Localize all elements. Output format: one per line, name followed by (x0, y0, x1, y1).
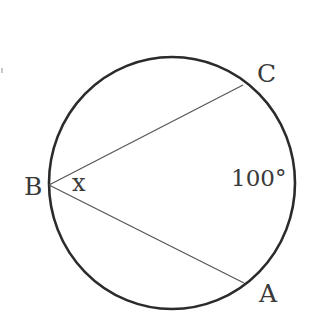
arc-measure-label: 100° (231, 165, 286, 191)
stray-mark (1, 68, 3, 73)
point-label-c: C (257, 59, 276, 88)
angle-label-x: x (72, 169, 86, 197)
point-label-a: A (258, 279, 278, 308)
chord-ba (49, 185, 244, 283)
circle-diagram: B C A x 100° (0, 0, 311, 329)
point-label-b: B (24, 172, 42, 201)
